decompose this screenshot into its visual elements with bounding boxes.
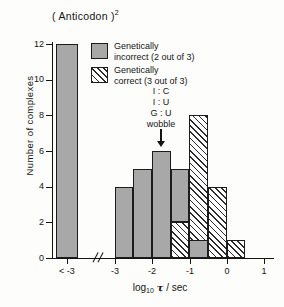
bar-correct-bin--1.5 <box>171 222 190 258</box>
y-tick-4 <box>46 187 52 188</box>
chart-figure: ( Anticodon )2 0 2 4 6 8 10 12 Number of… <box>0 0 284 307</box>
x-axis-label: log10 τ / sec <box>100 282 220 293</box>
bar-correct-bin--0.5 <box>208 187 227 258</box>
y-tick-8 <box>46 115 52 116</box>
bar-incorrect-bin-lt--3 <box>56 44 78 258</box>
bar-incorrect-bin--2.5 <box>133 169 152 258</box>
x-axis-label-subscript: 10 <box>146 287 154 294</box>
bar-incorrect-bin--2.0 <box>152 151 171 258</box>
x-tick-label-neg2: -2 <box>132 266 172 276</box>
bar-correct-bin--1.0 <box>189 115 208 258</box>
y-tick-0 <box>46 258 52 259</box>
legend-swatch-incorrect-icon <box>91 43 108 59</box>
y-tick-6 <box>46 151 52 152</box>
y-tick-label-0: 0 <box>22 254 44 263</box>
legend-label-correct-line1: Genetically <box>114 65 159 75</box>
legend-label-correct-line2: correct (3 out of 3) <box>114 76 188 87</box>
x-tick-lt-3 <box>67 258 68 264</box>
legend-swatch-correct-icon <box>91 67 108 83</box>
legend-label-incorrect-line2: incorrect (2 out of 3) <box>114 52 195 63</box>
annotation-line-ic: I : C <box>126 86 196 97</box>
chart-title: ( Anticodon )2 <box>52 9 119 22</box>
x-tick-label-1: 1 <box>244 266 284 276</box>
chart-title-exponent: 2 <box>115 9 119 16</box>
y-tick-10 <box>46 80 52 81</box>
x-tick-label-lt-3: < -3 <box>47 266 87 276</box>
y-tick-2 <box>46 222 52 223</box>
y-tick-label-2: 2 <box>22 218 44 227</box>
y-tick-12 <box>46 44 52 45</box>
annotation-line-iu: I : U <box>126 97 196 108</box>
y-axis-label: Number of complexes <box>24 41 35 211</box>
annotation-line-gu: G : U <box>126 108 196 119</box>
x-tick-label-0: 0 <box>207 266 247 276</box>
y-axis-line <box>52 42 53 259</box>
x-tick-neg3 <box>115 258 116 264</box>
x-axis-label-suffix: / sec <box>166 282 187 293</box>
chart-title-base: ( Anticodon ) <box>52 10 115 22</box>
bar-incorrect-bin--1.5 <box>171 169 190 222</box>
x-axis-label-prefix: log <box>133 282 146 293</box>
bar-incorrect-bin--3.0 <box>115 187 134 258</box>
wobble-annotation: I : C I : U G : U wobble <box>126 86 196 130</box>
legend-label-incorrect-line1: Genetically <box>114 41 159 51</box>
x-tick-0 <box>227 258 228 264</box>
x-tick-neg2 <box>152 258 153 264</box>
x-tick-1 <box>264 258 265 264</box>
annotation-arrow-head-icon <box>157 141 165 147</box>
bar-correct-bin-0.0 <box>227 240 246 258</box>
x-tick-neg1 <box>190 258 191 264</box>
x-tick-label-neg3: -3 <box>95 266 135 276</box>
x-axis-line <box>52 258 274 259</box>
x-tick-label-neg1: -1 <box>170 266 210 276</box>
bar-incorrect-bin--1.0 <box>189 240 208 258</box>
x-axis-label-tau: τ <box>157 282 164 293</box>
